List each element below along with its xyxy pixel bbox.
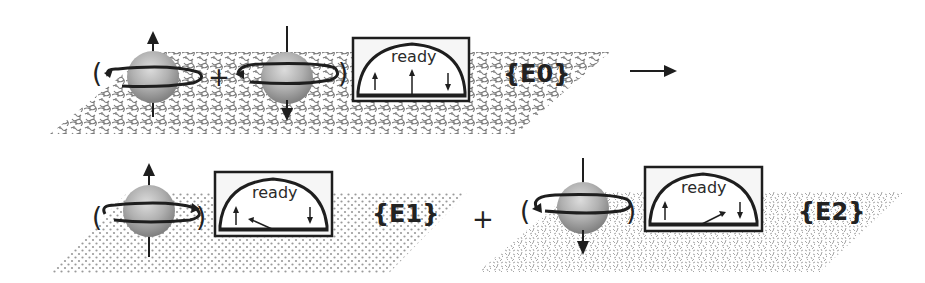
- open-paren: (: [92, 202, 102, 232]
- meter-e1: ready: [215, 172, 332, 236]
- measurement-diagram: ( + ) ready: [0, 0, 925, 283]
- close-paren: ): [626, 196, 636, 226]
- plus-operator: +: [472, 204, 494, 234]
- meter-e2: ready: [645, 167, 762, 231]
- meter-label: ready: [252, 183, 298, 202]
- meter-label: ready: [391, 47, 437, 66]
- state-e1: ( ) ready {E1}: [48, 163, 468, 274]
- state-e2: ( ) ready {E2}: [478, 158, 904, 272]
- open-paren: (: [520, 196, 530, 226]
- close-paren: ): [196, 202, 206, 232]
- state-e0: ( + ) ready: [50, 26, 610, 134]
- meter-label: ready: [681, 178, 727, 197]
- close-paren: ): [338, 58, 348, 88]
- open-paren: (: [92, 58, 102, 88]
- state-label-e0: {E0}: [503, 60, 570, 88]
- state-label-e2: {E2}: [798, 198, 865, 226]
- transition-arrow-icon: [630, 65, 677, 77]
- meter-e0: ready: [353, 38, 469, 101]
- state-label-e1: {E1}: [372, 200, 439, 228]
- plus-operator: +: [208, 62, 230, 92]
